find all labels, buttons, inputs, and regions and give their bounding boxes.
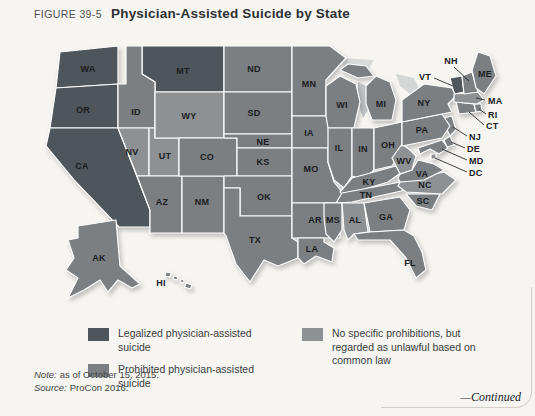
state-label-dc: DC (469, 168, 483, 178)
figure-notes: Note:as of October 15, 2015. Source:ProC… (34, 369, 159, 394)
state-label-wy: WY (181, 111, 196, 121)
state-label-ky: KY (362, 177, 375, 187)
state-label-mn: MN (302, 79, 317, 89)
callout-line-md (442, 149, 467, 160)
source-prefix: Source: (34, 382, 67, 393)
state-label-ia: IA (304, 128, 314, 138)
state-label-ms: MS (326, 215, 340, 225)
state-label-ut: UT (159, 151, 172, 161)
state-label-ne: NE (256, 137, 269, 147)
state-label-ak: AK (92, 253, 106, 263)
state-label-mi: MI (376, 99, 387, 109)
note-line: Note:as of October 15, 2015. (34, 369, 159, 382)
state-label-wv: WV (396, 156, 411, 166)
legend-swatch-legalized (88, 328, 109, 341)
state-label-va: VA (416, 169, 429, 179)
state-label-ct: CT (486, 121, 499, 131)
state-label-md: MD (469, 156, 484, 166)
figure-header: FIGURE 39-5 Physician-Assisted Suicide b… (34, 6, 350, 21)
state-label-ny: NY (417, 98, 430, 108)
figure-label: FIGURE 39-5 (34, 8, 102, 20)
callout-line-ct (469, 112, 484, 125)
legend-swatch-common-law (302, 328, 323, 341)
state-label-sd: SD (247, 108, 260, 118)
state-label-nc: NC (418, 180, 432, 190)
state-label-il: IL (335, 143, 344, 153)
state-label-al: AL (349, 215, 362, 225)
state-label-tn: TN (360, 190, 373, 200)
note-prefix: Note: (34, 369, 57, 380)
state-label-ga: GA (379, 212, 393, 222)
figure-title: Physician-Assisted Suicide by State (111, 6, 350, 21)
state-label-co: CO (200, 152, 214, 162)
note-text: as of October 15, 2015. (60, 369, 159, 380)
us-choropleth-map: WAORCAMTVTIDNVUTWYAZNMCONDSDNEKSOKTXMNIA… (22, 30, 514, 315)
state-label-az: AZ (156, 197, 169, 207)
state-label-vt: VT (419, 72, 431, 82)
state-label-ar: AR (308, 215, 322, 225)
state-hi (165, 272, 192, 289)
legend-label-common-law: No specific prohibitions, but regarded a… (332, 327, 500, 368)
state-label-nj: NJ (469, 132, 481, 142)
state-label-ca: CA (75, 161, 89, 171)
state-label-hi: HI (156, 278, 166, 288)
source-line: Source:ProCon 2016. (34, 382, 159, 395)
state-label-wi: WI (336, 100, 348, 110)
legend-label-legalized: Legalized physician-assisted suicide (118, 327, 286, 354)
state-label-la: LA (306, 244, 319, 254)
state-label-id: ID (131, 107, 141, 117)
state-label-oh: OH (381, 140, 395, 150)
state-label-wa: WA (80, 64, 95, 74)
state-label-or: OR (76, 105, 90, 115)
legend-item-common-law: No specific prohibitions, but regarded a… (302, 327, 502, 368)
state-label-ri: RI (488, 110, 498, 120)
state-label-ks: KS (256, 157, 269, 167)
state-fl (354, 230, 426, 278)
state-label-nh: NH (444, 56, 458, 66)
state-label-nv: NV (125, 147, 138, 157)
state-label-nm: NM (195, 197, 210, 207)
state-label-ma: MA (488, 96, 503, 106)
state-label-mo: MO (303, 164, 318, 174)
state-label-mt: MT (176, 66, 190, 76)
state-label-de: DE (467, 144, 480, 154)
continued-label: —Continued (460, 390, 521, 405)
state-in (352, 128, 374, 180)
state-label-pa: PA (416, 125, 429, 135)
state-label-ok: OK (257, 192, 271, 202)
state-label-tx: TX (249, 235, 261, 245)
state-label-in: IN (358, 144, 368, 154)
figure-panel: FIGURE 39-5 Physician-Assisted Suicide b… (0, 0, 535, 416)
source-text: ProCon 2016. (70, 382, 129, 393)
state-label-fl: FL (404, 258, 416, 268)
legend-column-right: No specific prohibitions, but regarded a… (302, 327, 502, 390)
state-label-sc: SC (416, 196, 429, 206)
state-label-me: ME (478, 69, 492, 79)
legend-item-legalized: Legalized physician-assisted suicide (88, 327, 302, 354)
state-label-nd: ND (247, 64, 261, 74)
